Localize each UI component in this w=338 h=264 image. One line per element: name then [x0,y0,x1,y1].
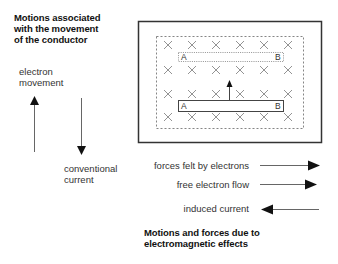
dotted-conductor-label-a: A [181,53,187,62]
diagram-graphics [0,0,338,264]
induced-current-arrow-left-icon [261,205,319,215]
solid-conductor-label-a: A [181,102,187,111]
free-electron-flow-arrow-right-icon [260,180,317,190]
legend-label-free-electron-flow: free electron flow [177,179,249,190]
legend-label-induced-current: induced current [184,203,249,214]
solid-conductor [179,101,284,112]
bottom-caption-line-2: electromagnetic effects [144,238,260,249]
solid-conductor-label-b: B [275,102,281,111]
dotted-conductor [179,53,284,62]
bottom-caption: Motions and forces due to electromagneti… [144,227,260,249]
dotted-conductor-label-b: B [275,53,281,62]
legend-label-forces-felt: forces felt by electrons [154,160,249,171]
conductor-motion-arrow-up-icon [227,80,233,100]
bottom-caption-line-1: Motions and forces due to [144,227,260,238]
conventional-current-arrow-down-icon [77,98,86,155]
electron-movement-arrow-up-icon [30,96,39,152]
forces-felt-arrow-right-icon [260,161,320,171]
